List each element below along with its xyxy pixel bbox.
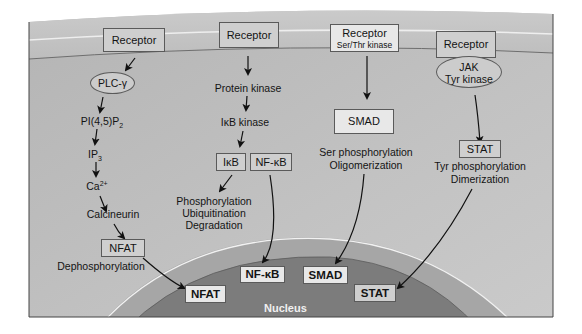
calcineurin-label: Calcineurin bbox=[78, 208, 148, 220]
ubiquitination-label: Ubiquitination bbox=[172, 207, 256, 219]
dimerization-label: Dimerization bbox=[424, 173, 536, 185]
receptor-smad-subtitle: Ser/Thr kinase bbox=[331, 40, 398, 50]
calcium-text: Ca bbox=[86, 180, 99, 192]
calcium-superscript: 2+ bbox=[100, 180, 108, 187]
pip2-subscript: 2 bbox=[119, 122, 123, 129]
smad-cytoplasm-box: SMAD bbox=[334, 109, 394, 134]
nfat-cytoplasm-box: NFAT bbox=[101, 239, 145, 257]
stat-cytoplasm-box: STAT bbox=[459, 140, 501, 158]
pip2-text: PI(4,5)P bbox=[81, 115, 120, 127]
ip3-subscript: 3 bbox=[98, 155, 102, 162]
receptor-box-smad: Receptor Ser/Thr kinase bbox=[330, 24, 399, 52]
ikb-box: IκB bbox=[216, 153, 246, 171]
pip2-label: PI(4,5)P2 bbox=[72, 115, 132, 127]
nfkb-nuclear-box: NF-κB bbox=[240, 266, 285, 283]
receptor-smad-title: Receptor bbox=[331, 27, 398, 40]
calcium-label: Ca2+ bbox=[80, 180, 114, 192]
degradation-label: Degradation bbox=[172, 219, 256, 231]
stat-nuclear-box: STAT bbox=[354, 284, 396, 302]
ikb-kinase-label: IκB kinase bbox=[210, 116, 280, 128]
receptor-box-stat: Receptor bbox=[436, 31, 496, 58]
tyr-phosphorylation-label: Tyr phosphorylation bbox=[424, 160, 536, 172]
receptor-box-nfat: Receptor bbox=[103, 28, 165, 52]
jak-tyr-kinase-oval: JAK Tyr kinase bbox=[436, 56, 502, 88]
ip3-text: IP bbox=[88, 148, 98, 160]
nfkb-cytoplasm-box: NF-κB bbox=[250, 153, 292, 171]
jak-label: JAK bbox=[437, 61, 501, 73]
ser-phosphorylation-label: Ser phosphorylation bbox=[310, 146, 422, 158]
ip3-label: IP3 bbox=[80, 148, 110, 160]
signaling-diagram: Receptor PLC-γ PI(4,5)P2 IP3 Ca2+ Calcin… bbox=[0, 0, 582, 334]
nfat-nuclear-box: NFAT bbox=[185, 285, 226, 303]
smad-nuclear-box: SMAD bbox=[303, 266, 348, 284]
tyr-kinase-label: Tyr kinase bbox=[437, 73, 501, 85]
nucleus-label: Nucleus bbox=[264, 302, 307, 314]
oligomerization-label: Oligomerization bbox=[310, 159, 422, 171]
phosphorylation-label: Phosphorylation bbox=[172, 195, 256, 207]
dephosphorylation-label: Dephosphorylation bbox=[52, 260, 150, 272]
receptor-box-nfkb: Receptor bbox=[219, 22, 279, 48]
plc-gamma-oval: PLC-γ bbox=[90, 72, 135, 94]
protein-kinase-label: Protein kinase bbox=[205, 82, 291, 94]
